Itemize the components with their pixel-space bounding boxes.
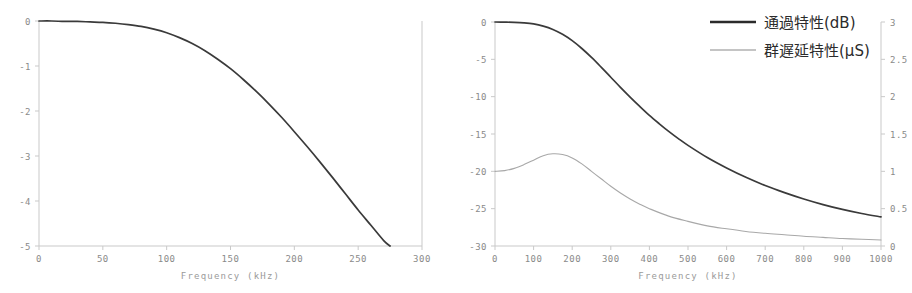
x-tick-label: 500 — [679, 254, 697, 264]
x-tick-label: 600 — [718, 254, 736, 264]
series-line-gain — [39, 21, 390, 246]
y2-tick-label: 2 — [890, 92, 896, 102]
x-tick-label: 300 — [413, 254, 431, 264]
y-tick-label: -10 — [469, 92, 487, 102]
y-tick-label: 0 — [25, 17, 31, 27]
y-tick-label: -2 — [19, 107, 31, 117]
y2-tick-label: 3 — [890, 18, 896, 28]
left-chart-svg: 0501001502002503000-1-2-3-4-5Frequency (… — [0, 0, 456, 293]
x-tick-label: 1000 — [869, 254, 893, 264]
x-tick-label: 50 — [97, 254, 109, 264]
x-tick-label: 300 — [602, 254, 620, 264]
y2-tick-label: 0 — [890, 242, 896, 252]
x-tick-label: 0 — [36, 254, 42, 264]
x-tick-label: 100 — [158, 254, 176, 264]
x-tick-label: 250 — [349, 254, 367, 264]
right-chart-svg: 010020030040050060070080090010000-5-10-1… — [456, 0, 912, 293]
x-tick-label: 900 — [834, 254, 852, 264]
y-tick-label: -4 — [19, 197, 31, 207]
y-tick-label: -20 — [469, 167, 487, 177]
y-tick-label: -5 — [475, 55, 487, 65]
x-axis-title: Frequency (kHz) — [181, 271, 280, 281]
x-tick-label: 700 — [756, 254, 774, 264]
x-tick-label: 400 — [641, 254, 659, 264]
legend-label: 通過特性(dB) — [764, 14, 856, 32]
figure-row: 0501001502002503000-1-2-3-4-5Frequency (… — [0, 0, 912, 293]
y-tick-label: -5 — [19, 242, 31, 252]
y2-tick-label: 1 — [890, 167, 896, 177]
y-tick-label: -15 — [469, 130, 487, 140]
legend-label: 群遅延特性(μS) — [764, 42, 870, 60]
left-chart-panel: 0501001502002503000-1-2-3-4-5Frequency (… — [0, 0, 456, 293]
y-tick-label: -30 — [469, 242, 487, 252]
x-tick-label: 100 — [525, 254, 543, 264]
y2-tick-label: 2.5 — [890, 55, 908, 65]
x-axis-title: Frequency (kHz) — [638, 271, 737, 281]
y-tick-label: -3 — [19, 152, 31, 162]
x-tick-label: 800 — [795, 254, 813, 264]
series-line-group-delay — [495, 154, 881, 240]
right-chart-panel: 010020030040050060070080090010000-5-10-1… — [456, 0, 912, 293]
legend: 通過特性(dB)群遅延特性(μS) — [710, 14, 870, 60]
y-tick-label: -25 — [469, 204, 487, 214]
y-tick-label: -1 — [19, 62, 31, 72]
x-tick-label: 200 — [285, 254, 303, 264]
y-tick-label: 0 — [481, 18, 487, 28]
y2-tick-label: 0.5 — [890, 204, 908, 214]
x-tick-label: 200 — [563, 254, 581, 264]
y2-tick-label: 1.5 — [890, 130, 908, 140]
x-tick-label: 0 — [492, 254, 498, 264]
x-tick-label: 150 — [222, 254, 240, 264]
